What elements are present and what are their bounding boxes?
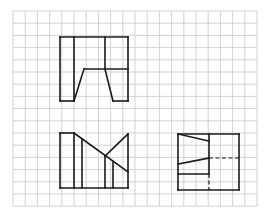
grid-paper bbox=[13, 11, 257, 206]
drawing-canvas bbox=[0, 0, 269, 219]
background bbox=[0, 0, 269, 219]
